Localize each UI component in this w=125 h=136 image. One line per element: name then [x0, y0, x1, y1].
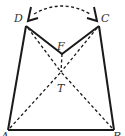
segment-b-c — [99, 26, 114, 130]
fold-mark-left — [28, 7, 38, 21]
segment-a-d — [8, 26, 26, 130]
folding-diagram: D C F T A B — [0, 0, 125, 136]
dashed-f-t — [61, 54, 62, 72]
label-b: B — [112, 130, 121, 136]
label-a: A — [0, 130, 9, 136]
label-t: T — [57, 82, 66, 95]
dashed-a-t — [10, 72, 61, 128]
dashed-b-t — [61, 72, 112, 128]
label-d: D — [13, 12, 23, 25]
label-c: C — [101, 12, 110, 25]
label-f: F — [56, 40, 65, 53]
dashed-arc — [34, 6, 90, 14]
fold-mark-right — [87, 7, 97, 21]
